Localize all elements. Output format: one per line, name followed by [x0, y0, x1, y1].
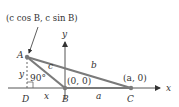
side-label-b: b	[91, 60, 97, 70]
label-D: D	[21, 94, 29, 104]
coord-label-C: (a, 0)	[123, 73, 147, 83]
side-label-c: c	[48, 61, 53, 71]
y-axis-label: y	[61, 29, 68, 39]
coord-label-A: (c cos B, c sin B)	[6, 13, 78, 23]
label-C: C	[127, 94, 134, 104]
x-axis-label: x	[166, 83, 171, 93]
triangle-coordinate-diagram: (c cos B, c sin B) A B C D (0, 0) (a, 0)…	[0, 0, 179, 107]
label-B: B	[61, 94, 69, 104]
side-label-y: y	[18, 69, 25, 79]
point-C	[129, 86, 133, 90]
side-label-x: x	[44, 91, 49, 101]
point-A	[25, 55, 29, 59]
coord-label-B: (0, 0)	[67, 76, 91, 86]
pointer-arrow	[29, 27, 38, 53]
side-label-a: a	[96, 91, 101, 101]
point-B	[63, 86, 67, 90]
angle-label: 90°	[30, 73, 46, 83]
label-A: A	[16, 50, 24, 60]
